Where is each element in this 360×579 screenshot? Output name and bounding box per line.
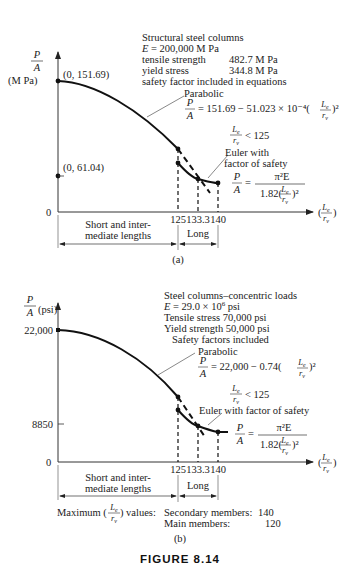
x-tick-133: 133.3 xyxy=(186,214,210,225)
x-tick-125: 125 xyxy=(170,214,186,225)
x-axis-label-le: Le xyxy=(321,452,330,463)
eq-a: A xyxy=(186,110,194,121)
y-axis-unit: (M Pa) xyxy=(8,75,38,87)
info-line-1: Structural steel columns xyxy=(142,32,243,43)
figure-8-14: P A (M Pa) 0 (0, 151.69) (0, 61.04) 125 … xyxy=(0,0,360,579)
x-axis-label-rv: rv xyxy=(323,213,329,224)
secondary-members-value: 140 xyxy=(258,507,274,518)
eq-square: )² xyxy=(332,103,339,115)
y-tick-22000: 22,000 xyxy=(24,325,53,336)
euler-eq-numerator: π²E xyxy=(277,422,292,433)
short-region-label-2: mediate lengths xyxy=(85,483,151,494)
point-top-label: (0, 151.69) xyxy=(63,69,110,81)
point-mid-label: (0, 61.04) xyxy=(63,162,105,174)
euler-eq-p: P xyxy=(233,171,241,182)
euler-den-square: )² xyxy=(292,188,299,200)
cond-rv: rv xyxy=(233,394,239,405)
parabolic-leader xyxy=(147,96,184,117)
euler-label: Euler with factor of safety xyxy=(199,405,310,416)
parabolic-extension xyxy=(178,397,205,437)
parabolic-curve xyxy=(58,330,178,397)
x-tick-133: 133.3 xyxy=(186,464,210,475)
info-line-1: Steel columns–concentric loads xyxy=(164,290,297,301)
euler-eq-p: P xyxy=(236,422,244,433)
max-values-suffix: ) values: xyxy=(120,507,156,519)
y-axis-label-p: P xyxy=(33,49,41,60)
short-region-label-2: mediate lengths xyxy=(85,230,151,241)
info-line-5: safety factor included in equations xyxy=(142,76,287,87)
origin-label: 0 xyxy=(46,457,51,468)
panel-a-label: (a) xyxy=(172,254,184,266)
eq-a: A xyxy=(199,368,207,379)
x-axis-label-rv: rv xyxy=(323,463,329,474)
panel-b-label: (b) xyxy=(174,533,187,545)
eq-p: P xyxy=(186,97,194,108)
short-region-label-1: Short and inter- xyxy=(85,472,151,483)
origin-label: 0 xyxy=(46,207,51,218)
info-line-5: Safety factors included xyxy=(172,334,270,345)
y-tick-8850: 8850 xyxy=(32,419,53,430)
cond-rv: rv xyxy=(233,135,239,146)
max-le: Le xyxy=(109,502,118,513)
eq-square: )² xyxy=(309,361,316,373)
info-line-4: yield stress344.8 M Pa xyxy=(142,65,278,76)
parabolic-leader xyxy=(158,353,195,375)
x-tick-140: 140 xyxy=(210,214,226,225)
parabolic-extension xyxy=(178,149,210,193)
x-tick-140: 140 xyxy=(210,464,226,475)
x-tick-125: 125 xyxy=(170,464,186,475)
main-members-label: Main members: xyxy=(164,518,230,529)
euler-den-square: )² xyxy=(292,439,299,451)
parabolic-equation: = 22,000 − 0.74( xyxy=(211,361,282,373)
cond-le: Le xyxy=(231,383,240,394)
condition-text: < 125 xyxy=(245,130,269,141)
figure-caption: FIGURE 8.14 xyxy=(140,553,220,565)
info-line-2: E = 200,000 M Pa xyxy=(141,43,219,54)
euler-eq-numerator: π²E xyxy=(275,171,290,182)
euler-eq-a: A xyxy=(236,435,244,446)
y-axis-label-a: A xyxy=(33,62,41,73)
euler-eq-a: A xyxy=(233,184,241,195)
euler-eq-denominator: 1.82( xyxy=(260,188,282,200)
y-axis-unit: (psi) xyxy=(38,304,58,316)
x-axis-label-paren-close: ) xyxy=(333,457,337,469)
main-members-value: 120 xyxy=(265,518,281,529)
x-axis-label-le: Le xyxy=(321,202,330,213)
euler-eq-denominator: 1.82( xyxy=(260,439,282,451)
long-region-label: Long xyxy=(187,228,210,239)
euler-den-rv: rv xyxy=(282,445,288,456)
long-region-label: Long xyxy=(187,480,210,491)
panel-b: P A (psi) 0 22,000 8850 125 133.3 140 ( … xyxy=(24,290,337,545)
euler-label-2: factor of safety xyxy=(224,158,288,169)
euler-eq-equals: = xyxy=(248,428,254,439)
cond-le: Le xyxy=(231,124,240,135)
max-values-label: Maximum ( xyxy=(57,507,107,519)
parabolic-equation: = 151.69 − 51.023 × 10⁻⁴( xyxy=(198,103,310,115)
info-line-3: Tensile stress 70,000 psi xyxy=(164,312,267,323)
info-line-2: E = 29.0 × 106 psi xyxy=(163,300,240,312)
euler-den-rv: rv xyxy=(282,194,288,205)
euler-label-1: Euler with xyxy=(225,147,270,158)
condition-text: < 125 xyxy=(245,389,269,400)
eq-p: P xyxy=(199,355,207,366)
info-line-4: Yield strength 50,000 psi xyxy=(164,323,270,334)
max-rv: rv xyxy=(111,513,117,524)
euler-eq-equals: = xyxy=(245,177,251,188)
parabolic-curve xyxy=(58,81,178,149)
eq-le: Le xyxy=(297,357,306,368)
panel-a: P A (M Pa) 0 (0, 151.69) (0, 61.04) 125 … xyxy=(8,32,339,266)
eq-rv: rv xyxy=(322,110,328,121)
info-line-3: tensile strength482.7 M Pa xyxy=(142,54,278,65)
y-axis-label-p: P xyxy=(26,294,34,305)
y-axis-label-a: A xyxy=(26,307,34,318)
x-axis-label-paren-close: ) xyxy=(333,207,337,219)
secondary-members-label: Secondary members: xyxy=(164,507,252,518)
eq-rv: rv xyxy=(299,368,305,379)
eq-le: Le xyxy=(320,99,329,110)
short-region-label-1: Short and inter- xyxy=(85,219,151,230)
